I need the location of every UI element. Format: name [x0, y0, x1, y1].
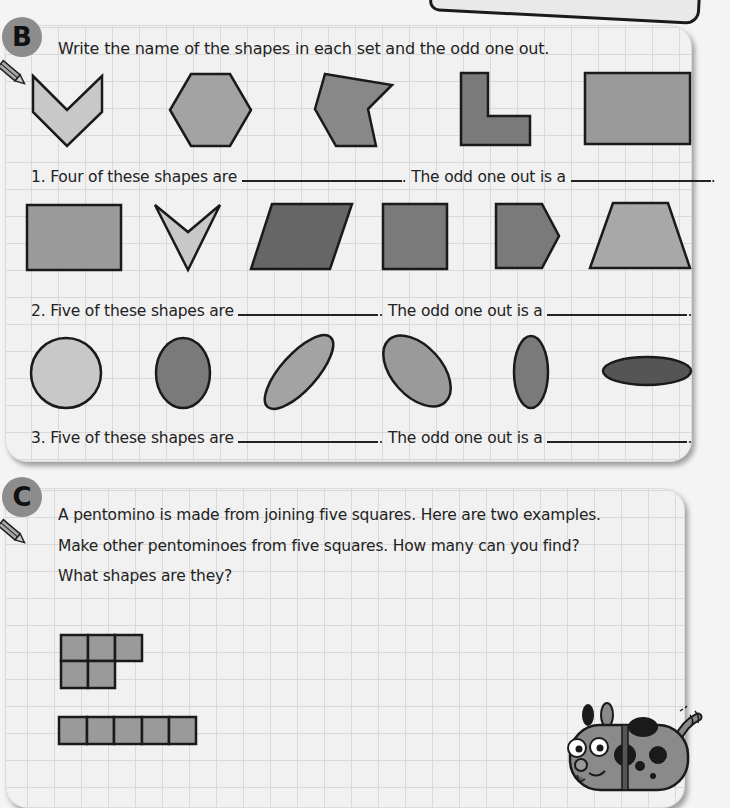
p-pentomino	[61, 635, 142, 688]
i-pentomino	[59, 717, 196, 744]
dog-mascot-icon	[565, 705, 715, 790]
